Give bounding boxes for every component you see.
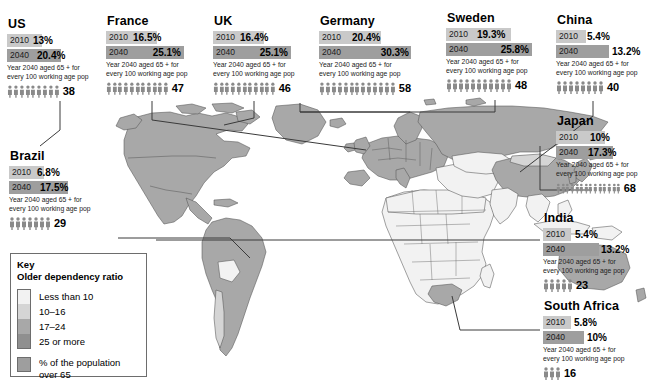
bar-value-2040-china: 13.2% [612, 45, 640, 58]
bar-row-2010-japan: 2010 10% [556, 131, 636, 144]
bar-year-2010-germany: 2010 [322, 31, 341, 44]
note-line1-france: Year 2040 aged 65 + for [106, 61, 184, 69]
infographic-root: US 2010 13% 2040 20.4% Year 2040 aged 65… [0, 0, 650, 389]
legend-population-swatch [17, 357, 31, 372]
person-icon [45, 217, 51, 230]
dependency-value-sweden: 48 [515, 79, 527, 92]
bar-value-2040-uk: 25.1% [260, 46, 288, 59]
person-icon [270, 82, 276, 95]
bar-value-2010-us: 13% [33, 34, 53, 47]
people-row-germany: 58 [319, 81, 411, 95]
panel-uk: UK 2010 16.4% 2040 25.1% Year 2040 aged … [213, 15, 291, 95]
bar-value-2040-india: 13.2% [601, 243, 629, 256]
panel-japan: Japan 2010 10% 2040 17.3% Year 2040 aged… [556, 115, 636, 195]
bar-year-2010-india: 2010 [546, 228, 565, 241]
panel-title-china: China [557, 14, 630, 27]
bar-value-2010-south-africa: 5.8% [574, 316, 597, 329]
people-row-sweden: 48 [446, 78, 532, 92]
bar-row-2010-south-africa: 2010 5.8% [543, 316, 617, 329]
note-line1-south-africa: Year 2040 aged 65 + for [543, 346, 617, 354]
people-row-south-africa: 16 [543, 366, 617, 380]
note-line2-south-africa: every 100 working age pop [543, 355, 617, 363]
person-icon [54, 85, 60, 98]
bar-value-2040-japan: 17.3% [588, 146, 616, 159]
people-row-brazil: 29 [9, 216, 85, 230]
people-row-france: 47 [106, 81, 184, 95]
note-line2-us: every 100 working age pop [7, 73, 75, 81]
bar-row-2040-japan: 2040 17.3% [556, 146, 636, 159]
legend-label-0: Less than 10 [39, 289, 93, 304]
bar-value-2040-germany: 30.3% [381, 46, 409, 59]
dependency-value-china: 40 [607, 81, 619, 94]
panel-south-africa: South Africa 2010 5.8% 2040 10% Year 204… [543, 300, 617, 380]
legend-label-2: 17–24 [39, 319, 65, 334]
people-row-india: 23 [543, 278, 621, 292]
bar-year-2040-germany: 2040 [322, 46, 341, 59]
note-line1-india: Year 2040 aged 65 + for [543, 258, 621, 266]
note-line2-china: every 100 working age pop [556, 69, 630, 77]
note-line1-sweden: Year 2040 aged 65 + for [446, 58, 532, 66]
leader-line-sweden [300, 100, 495, 112]
note-line1-china: Year 2040 aged 65 + for [556, 60, 630, 68]
dependency-value-us: 38 [63, 85, 75, 98]
bar-row-2040-sweden: 2040 25.8% [446, 43, 532, 56]
legend-swatch-2 [17, 319, 31, 334]
bar-year-2010-uk: 2010 [216, 31, 235, 44]
panel-india: India 2010 5.4% 2040 13.2% Year 2040 age… [543, 212, 621, 292]
legend-key: Key Older dependency ratio Less than 10 … [10, 253, 147, 377]
dependency-value-germany: 58 [399, 82, 411, 95]
dependency-value-brazil: 29 [54, 217, 66, 230]
bar-year-2040-japan: 2040 [559, 146, 578, 159]
leader-line-southafrica [452, 296, 540, 330]
bar-year-2010-brazil: 2010 [12, 166, 31, 179]
legend-population-label-line1: % of the population [39, 357, 120, 369]
bar-year-2040-uk: 2040 [216, 46, 235, 59]
bar-year-2010-sweden: 2010 [449, 28, 468, 41]
bar-value-2010-china: 5.4% [587, 30, 610, 43]
bar-year-2040-india: 2040 [546, 243, 565, 256]
bar-row-2040-india: 2040 13.2% [543, 243, 621, 256]
bar-value-2010-india: 5.4% [575, 228, 598, 241]
bar-value-2040-france: 25.1% [153, 46, 181, 59]
legend-scale: Less than 10 10–16 17–24 25 or more [17, 289, 140, 349]
note-line2-germany: every 100 working age pop [319, 70, 411, 78]
bar-value-2040-brazil: 17.5% [40, 181, 68, 194]
bar-row-2040-france: 2040 25.1% [106, 46, 184, 59]
person-icon [616, 182, 621, 195]
person-icon [567, 279, 573, 292]
panel-brazil: Brazil 2010 6.8% 2040 17.5% Year 2040 ag… [9, 150, 85, 230]
bar-year-2040-china: 2040 [559, 45, 578, 58]
panel-title-uk: UK [214, 15, 291, 28]
legend-population-row: % of the population over 65 [17, 357, 140, 380]
legend-row-0: Less than 10 [17, 289, 140, 304]
bar-row-2010-france: 2010 16.5% [106, 31, 184, 44]
legend-swatch-1 [17, 304, 31, 319]
legend-swatch-0 [17, 289, 31, 304]
bar-row-2040-south-africa: 2040 10% [543, 331, 617, 344]
panel-sweden: Sweden 2010 19.3% 2040 25.8% Year 2040 a… [446, 12, 532, 92]
legend-population-label-line2: over 65 [39, 369, 120, 381]
dependency-value-france: 47 [172, 82, 184, 95]
bar-row-2010-germany: 2010 20.4% [319, 31, 411, 44]
legend-population-label: % of the population over 65 [31, 357, 120, 380]
legend-label-1: 10–16 [39, 304, 65, 319]
bar-value-2040-south-africa: 10% [587, 331, 607, 344]
panel-title-us: US [8, 18, 75, 31]
bar-value-2040-us: 20.4% [37, 49, 65, 62]
note-line1-japan: Year 2040 aged 65 + for [556, 161, 636, 169]
bar-row-2040-brazil: 2040 17.5% [9, 181, 85, 194]
legend-swatch-3 [17, 334, 31, 349]
note-line1-germany: Year 2040 aged 65 + for [319, 61, 411, 69]
bar-year-2040-sweden: 2040 [449, 43, 468, 56]
bar-row-2010-india: 2010 5.4% [543, 228, 621, 241]
legend-title-line2: Older dependency ratio [17, 271, 140, 283]
bar-value-2010-uk: 16.4% [240, 31, 268, 44]
bar-value-2010-sweden: 19.3% [477, 28, 505, 41]
note-line2-india: every 100 working age pop [543, 267, 621, 275]
note-line2-france: every 100 working age pop [106, 70, 184, 78]
legend-row-1: 10–16 [17, 304, 140, 319]
bar-value-2010-brazil: 6.8% [37, 166, 60, 179]
panel-germany: Germany 2010 20.4% 2040 30.3% Year 2040 … [319, 15, 411, 95]
person-icon [506, 79, 512, 92]
dependency-value-uk: 46 [279, 82, 291, 95]
